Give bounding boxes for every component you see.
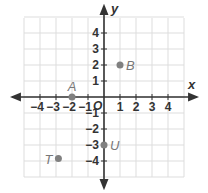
x-tick-label: 2 [133, 100, 140, 114]
point-marker [117, 62, 124, 69]
point-label: A [67, 79, 77, 94]
point-t: T [44, 152, 61, 167]
point-marker [55, 155, 62, 162]
y-tick-label: 3 [92, 42, 99, 56]
coordinate-plane: xyO −4−3−2−112344321−1−2−3−4 ABUT [0, 0, 208, 193]
y-tick-label: −2 [85, 122, 99, 136]
x-tick-label: 1 [117, 100, 124, 114]
y-tick-label: −3 [85, 138, 99, 152]
y-tick-label: −4 [85, 154, 99, 168]
point-label: T [44, 152, 53, 167]
point-marker [69, 94, 76, 101]
x-tick-label: −4 [30, 100, 44, 114]
point-b: B [117, 58, 136, 73]
point-marker [101, 142, 108, 149]
y-axis-label: y [110, 1, 119, 16]
x-axis-label: x [187, 77, 196, 92]
x-tick-label: −2 [62, 100, 76, 114]
x-tick-label: 3 [149, 100, 156, 114]
x-tick-label: −3 [46, 100, 60, 114]
point-label: U [110, 138, 120, 153]
x-tick-label: 4 [165, 100, 172, 114]
point-label: B [126, 58, 135, 73]
y-tick-label: −1 [85, 106, 99, 120]
y-tick-label: 1 [92, 74, 99, 88]
y-tick-label: 2 [92, 58, 99, 72]
y-tick-label: 4 [92, 26, 99, 40]
